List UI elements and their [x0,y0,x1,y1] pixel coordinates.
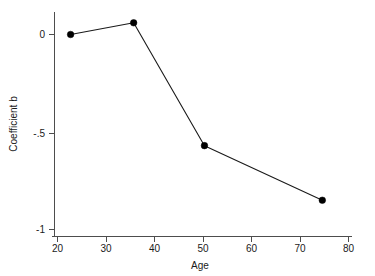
y-tick-label-1: -.5 [33,128,45,139]
data-point-marker-1 [130,20,137,27]
y-tick-label-2: -1 [36,224,45,235]
x-tick-label-2: 40 [149,243,161,254]
x-tick-label-0: 20 [52,243,64,254]
data-point-marker-0 [67,31,74,38]
y-axis-title: Coefficient b [8,96,19,152]
x-tick-label-5: 70 [294,243,306,254]
x-tick-label-3: 50 [197,243,209,254]
chart-figure: 0 -.5 -1 20 30 40 50 60 70 80 Age Coeffi… [0,0,375,276]
line-chart-canvas: 0 -.5 -1 20 30 40 50 60 70 80 Age Coeffi… [0,0,375,276]
x-axis-title: Age [191,260,209,271]
x-tick-label-4: 60 [246,243,258,254]
x-tick-label-1: 30 [100,243,112,254]
x-tick-label-6: 80 [343,243,355,254]
chart-background [0,0,375,276]
y-tick-label-0: 0 [39,29,45,40]
data-point-marker-3 [319,197,326,204]
data-point-marker-2 [201,142,208,149]
